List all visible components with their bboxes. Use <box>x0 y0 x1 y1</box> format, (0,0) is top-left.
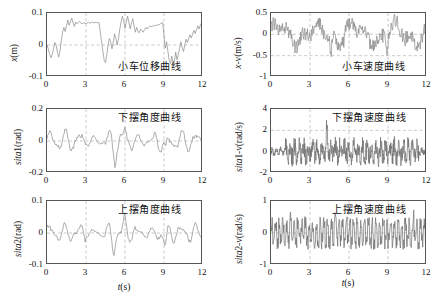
x-axis-label: t(s) <box>342 278 355 288</box>
x-tick-label: 6 <box>346 175 351 185</box>
y-tick-label: 0.1 <box>10 195 43 205</box>
y-tick-label: -1 <box>230 71 267 81</box>
subplot-cart-displacement: x(m) 0.1 0 -0.1 0 3 6 9 12 小车位移曲线 <box>0 0 220 100</box>
subplot-title: 下摆角度曲线 <box>118 109 182 124</box>
x-axis-label: t(s) <box>118 282 131 292</box>
x-tick-label: 3 <box>307 267 312 277</box>
x-tick-label: 12 <box>198 175 207 185</box>
y-tick-label: -1 <box>234 259 267 269</box>
y-tick-label: 0 <box>10 135 43 145</box>
subplot-title: 小车位移曲线 <box>118 58 182 73</box>
subplot-title: 下摆角速度曲线 <box>332 109 406 124</box>
y-tick-label: 1 <box>238 195 267 205</box>
x-tick-label: 9 <box>385 79 390 89</box>
x-tick-label: 12 <box>198 79 207 89</box>
x-tick-label: 0 <box>268 267 273 277</box>
y-tick-label: 0.1 <box>10 7 43 17</box>
x-tick-label: 9 <box>161 267 166 277</box>
x-tick-label: 0 <box>44 79 49 89</box>
x-tick-label: 12 <box>422 175 431 185</box>
y-tick-label: 0 <box>238 146 267 156</box>
x-tick-label: 9 <box>161 79 166 89</box>
y-tick-label: -0.1 <box>6 71 43 81</box>
subplot-lower-pendulum-angular-velocity: sita1-v(rad/s) 4 2 0 -2 0 3 6 9 12 下摆角速度… <box>220 100 440 196</box>
x-tick-label: 0 <box>268 79 273 89</box>
subplot-upper-pendulum-angle: sita2(rad) 0.1 0 -0.1 0 3 6 9 12 上摆角度曲线 … <box>0 196 220 304</box>
x-tick-label: 6 <box>122 79 127 89</box>
y-tick-label: 0.5 <box>234 7 267 17</box>
y-axis-label: sita2-v(rad/s) <box>234 192 244 286</box>
x-tick-label: 12 <box>422 79 431 89</box>
x-tick-label: 3 <box>83 175 88 185</box>
x-tick-label: 6 <box>122 175 127 185</box>
x-tick-label: 3 <box>83 79 88 89</box>
subplot-upper-pendulum-angular-velocity: sita2-v(rad/s) 1 0 -1 0 3 6 9 12 上摆角速度曲线… <box>220 196 440 304</box>
x-tick-label: 9 <box>385 267 390 277</box>
y-tick-label: -0.5 <box>230 50 267 60</box>
x-tick-label: 0 <box>44 267 49 277</box>
x-tick-label: 3 <box>83 267 88 277</box>
y-tick-label: 0 <box>10 39 43 49</box>
x-tick-label: 6 <box>346 267 351 277</box>
x-tick-label: 0 <box>44 175 49 185</box>
x-tick-label: 3 <box>307 175 312 185</box>
y-tick-label: 4 <box>238 103 267 113</box>
subplot-title: 上摆角速度曲线 <box>332 201 406 216</box>
subplot-lower-pendulum-angle: sita1(rad) 0.2 0 -0.2 0 3 6 9 12 下摆角度曲线 <box>0 100 220 196</box>
y-tick-label: -0.2 <box>6 167 43 177</box>
y-tick-label: 0.2 <box>10 103 43 113</box>
x-tick-label: 12 <box>198 267 207 277</box>
y-tick-label: -2 <box>234 167 267 177</box>
x-tick-label: 0 <box>268 175 273 185</box>
subplot-title: 小车速度曲线 <box>342 58 406 73</box>
x-tick-label: 6 <box>346 79 351 89</box>
figure-grid: x(m) 0.1 0 -0.1 0 3 6 9 12 小车位移曲线 x-v(m/… <box>0 0 440 304</box>
y-tick-label: -0.1 <box>6 259 43 269</box>
x-tick-label: 9 <box>385 175 390 185</box>
subplot-title: 上摆角度曲线 <box>118 201 182 216</box>
x-tick-label: 6 <box>122 267 127 277</box>
y-tick-label: 0 <box>10 227 43 237</box>
y-tick-label: 0 <box>238 227 267 237</box>
y-tick-label: 2 <box>238 124 267 134</box>
x-tick-label: 9 <box>161 175 166 185</box>
y-tick-label: 0 <box>234 28 267 38</box>
x-tick-label: 12 <box>422 267 431 277</box>
subplot-cart-velocity: x-v(m/s) 0.5 0 -0.5 -1 0 3 6 9 12 小车速度曲线 <box>220 0 440 100</box>
x-tick-label: 3 <box>307 79 312 89</box>
